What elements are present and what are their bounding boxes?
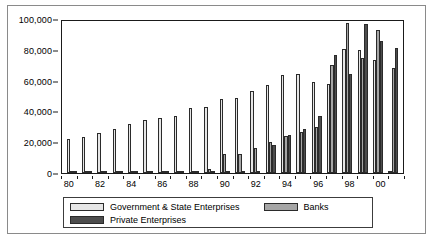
bar [143,120,146,173]
bar [89,171,92,173]
bar [196,171,199,173]
bar [128,124,131,173]
legend-item-government: Government & State Enterprises [70,202,240,212]
x-tick-mark [357,176,358,179]
chart-legend: Government & State Enterprises Banks Pri… [63,197,373,228]
y-tick-label: 60,000 [24,77,52,87]
x-tick-mark [310,176,311,179]
bar [211,171,214,173]
x-tick-mark [217,176,218,179]
bar [174,116,177,173]
bar [104,171,107,173]
bar-group [232,21,247,173]
bar-group [125,21,140,173]
plot-area [61,20,404,174]
x-tick-mark [404,176,405,179]
bar-group [370,21,385,173]
x-tick-mark [264,176,265,179]
bar-group [79,21,94,173]
y-tick-label: 100,000 [19,15,52,25]
x-tick-label: 86 [157,179,167,189]
x-tick-mark [77,176,78,179]
bar [334,55,337,173]
bar-group [340,21,355,173]
x-tick-mark [233,176,234,179]
x-tick-mark [388,176,389,179]
y-tick-label: 0 [47,169,52,179]
bar [318,116,321,173]
x-tick-label: 88 [189,179,199,189]
bar-group [294,21,309,173]
x-tick-label: 82 [95,179,105,189]
bar [272,145,275,173]
bar [257,171,260,173]
bar [135,171,138,173]
legend-swatch-banks-icon [264,203,298,211]
bar [150,171,153,173]
bar-group [309,21,324,173]
bar-group [263,21,278,173]
y-tick-label: 40,000 [24,107,52,117]
y-tick-mark [53,174,58,175]
bar-group [278,21,293,173]
x-tick-label: 84 [126,179,136,189]
y-tick-label: 80,000 [24,46,52,56]
x-tick-label: 00 [376,179,386,189]
y-axis: 020,00040,00060,00080,000100,000 [8,14,58,180]
bar [119,171,122,173]
bar [189,108,192,173]
bar-group [110,21,125,173]
y-tick-mark [53,143,58,144]
legend-row-1: Government & State Enterprises Banks [70,201,366,213]
x-tick-mark [326,176,327,179]
x-tick-label: 90 [220,179,230,189]
bar [380,41,383,173]
x-tick-mark [123,176,124,179]
bar [349,74,352,173]
bar [113,129,116,173]
bar-group [141,21,156,173]
bar-group [171,21,186,173]
y-tick-mark [53,50,58,51]
x-tick-mark [248,176,249,179]
bar-group [64,21,79,173]
bar [204,107,207,173]
x-tick-mark [155,176,156,179]
legend-label-banks: Banks [304,202,329,212]
bar [254,148,257,173]
legend-item-private: Private Enterprises [70,215,186,225]
x-tick-mark [342,176,343,179]
bar [242,171,245,173]
x-tick-mark [373,176,374,179]
bar [181,171,184,173]
legend-item-banks: Banks [264,202,329,212]
legend-label-private: Private Enterprises [110,215,186,225]
chart-figure: 020,00040,00060,00080,000100,000 8082848… [7,5,426,234]
y-tick-mark [53,20,58,21]
bar [67,139,70,173]
x-tick-mark [201,176,202,179]
legend-swatch-private-icon [70,216,104,224]
bar-group [355,21,370,173]
bar-groups [62,21,403,173]
bar [82,137,85,173]
bar-group [217,21,232,173]
bar [364,24,367,173]
x-tick-mark [279,176,280,179]
bar-group [386,21,401,173]
x-tick-label: 92 [251,179,261,189]
bar-group [248,21,263,173]
x-tick-label: 96 [313,179,323,189]
bar [303,129,306,173]
bar-group [187,21,202,173]
legend-row-2: Private Enterprises [70,214,366,226]
x-tick-label: 80 [64,179,74,189]
legend-label-government: Government & State Enterprises [110,202,240,212]
bar [158,118,161,173]
bar-group [202,21,217,173]
y-tick-mark [53,81,58,82]
bar-group [324,21,339,173]
bar [288,135,291,174]
x-tick-mark [108,176,109,179]
bar-group [95,21,110,173]
